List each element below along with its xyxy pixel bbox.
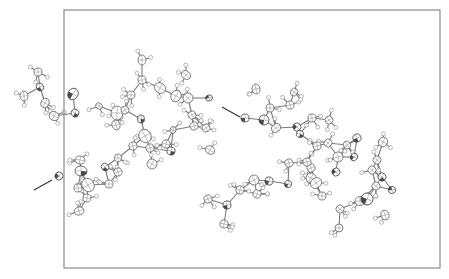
hydrogen-atom — [120, 95, 124, 99]
hydrogen-atom — [87, 108, 91, 112]
hydrogen-atom — [120, 121, 124, 125]
hydrogen-atom — [388, 146, 392, 150]
hydrogen-atom — [178, 102, 182, 106]
hydrogen-atom — [136, 49, 140, 53]
hydrogen-atom — [68, 158, 72, 162]
hydrogen-atom — [156, 151, 160, 155]
hydrogen-atom — [133, 136, 137, 140]
hydrogen-atom — [212, 205, 216, 209]
hydrogen-atom — [261, 186, 265, 190]
hydrogen-atom — [45, 75, 49, 79]
hydrogen-atom — [328, 158, 332, 162]
hydrogen-atom — [176, 70, 180, 74]
hydrogen-atom — [343, 149, 347, 153]
carbon-ellipsoid — [284, 158, 294, 168]
hydrogen-atom — [199, 113, 203, 117]
hydrogen-atom — [324, 181, 328, 185]
hydrogen-atom — [343, 214, 347, 218]
hydrogen-atom — [157, 95, 161, 99]
hydrogen-atom — [266, 192, 270, 196]
hydrogen-atom — [360, 171, 364, 175]
hydrogen-atom — [277, 160, 281, 164]
carbon-ellipsoid — [138, 55, 146, 65]
hydrogen-atom — [147, 82, 151, 86]
hydrogen-atom — [98, 180, 102, 184]
hydrogen-atom — [51, 105, 55, 109]
hydrogen-atom — [311, 192, 315, 196]
hydrogen-atom — [174, 143, 178, 147]
heteroatom-ellipsoid — [241, 114, 249, 122]
hydrogen-atom — [34, 80, 38, 84]
hydrogen-atom — [67, 213, 71, 217]
hydrogen-atom — [182, 108, 186, 112]
hydrogen-atom — [142, 87, 146, 91]
hydrogen-atom — [198, 146, 202, 150]
hydrogen-atom — [22, 103, 26, 107]
carbon-ellipsoid — [204, 144, 217, 156]
heteroatom-ellipsoid — [53, 170, 64, 181]
hydrogen-atom — [56, 121, 60, 125]
hydrogen-atom — [330, 108, 334, 112]
heteroatom-ellipsoid — [137, 115, 145, 124]
hydrogen-atom — [123, 160, 127, 164]
carbon-ellipsoid — [366, 164, 377, 175]
hydrogen-atom — [213, 141, 217, 145]
hydrogen-atom — [329, 231, 333, 235]
carbon-ellipsoid — [247, 173, 261, 187]
carbon-ellipsoid — [113, 167, 123, 177]
carbon-ellipsoid — [19, 91, 28, 102]
heteroatom-ellipsoid — [100, 162, 111, 173]
hydrogen-atom — [135, 71, 139, 75]
heteroatom-ellipsoid — [376, 171, 387, 182]
carbon-ellipsoid — [127, 91, 135, 99]
hydrogen-atom — [267, 96, 271, 100]
hydrogen-atom — [352, 207, 356, 211]
hydrogen-atom — [331, 132, 335, 136]
carbon-ellipsoid — [308, 114, 317, 123]
hydrogen-atom — [149, 153, 153, 157]
carbon-ellipsoid — [266, 104, 274, 112]
heteroatom-ellipsoid — [258, 114, 269, 125]
hydrogen-atom — [208, 119, 212, 123]
hydrogen-atom — [230, 225, 234, 229]
hydrogen-atom — [151, 137, 155, 141]
carbon-ellipsoid — [137, 75, 146, 84]
hydrogen-atom — [132, 153, 136, 157]
hydrogen-atom — [215, 194, 219, 198]
hydrogen-atom — [28, 65, 32, 69]
hydrogen-atom — [373, 216, 377, 220]
carbon-ellipsoid — [73, 206, 85, 217]
carbon-ellipsoid — [322, 137, 333, 148]
carbon-ellipsoid — [111, 119, 122, 131]
hydrogen-atom — [184, 63, 188, 67]
heteroatom-ellipsoid — [330, 166, 341, 177]
carbon-ellipsoid — [169, 88, 183, 103]
hydrogen-atom — [124, 99, 128, 103]
hydrogen-atom — [309, 151, 313, 155]
hbond-left — [34, 180, 52, 190]
hydrogen-atom — [319, 114, 323, 118]
carbon-ellipsoid — [189, 121, 199, 131]
hydrogen-atom — [100, 113, 104, 117]
hydrogen-atom — [297, 162, 301, 166]
heteroatom-ellipsoid — [284, 180, 292, 188]
heteroatom-ellipsoid — [66, 86, 81, 101]
hydrogen-atom — [349, 201, 353, 205]
hydrogen-atom — [175, 83, 179, 87]
hydrogen-atom — [307, 141, 311, 145]
hydrogen-atom — [269, 133, 273, 137]
carbon-ellipsoid — [377, 136, 389, 149]
carbon-ellipsoid — [39, 97, 51, 110]
carbon-ellipsoid — [105, 180, 113, 188]
hydrogen-atom — [316, 125, 320, 129]
hydrogen-atom — [380, 220, 384, 224]
hydrogen-atom — [44, 111, 48, 115]
hydrogen-atom — [277, 108, 281, 112]
hydrogen-atom — [300, 171, 304, 175]
hydrogen-atom — [163, 130, 167, 134]
hydrogen-atom — [76, 201, 80, 205]
hydrogen-atom — [105, 123, 109, 127]
hydrogen-atom — [305, 123, 309, 127]
hydrogen-atom — [281, 95, 285, 99]
carbon-ellipsoid — [371, 154, 382, 165]
